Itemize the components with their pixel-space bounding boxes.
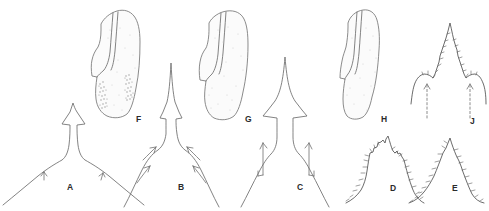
panel-G: G	[199, 11, 252, 124]
panel-A-arrow-right	[99, 173, 105, 180]
panel-J-setae	[422, 33, 477, 78]
panel-B-outline	[124, 63, 219, 207]
panel-E: E	[409, 138, 484, 203]
panel-J: J	[411, 23, 486, 126]
panel-E-setae	[410, 141, 483, 202]
panel-D-outline	[346, 136, 424, 203]
panel-H-label: H	[381, 114, 387, 124]
panel-B-arrow-lower-left	[137, 166, 150, 183]
panel-D: D	[346, 136, 424, 203]
panel-B: B	[124, 63, 219, 207]
panel-B-arrow-lower-right	[193, 166, 206, 183]
panel-E-outline	[409, 138, 484, 203]
panel-J-outline	[411, 23, 486, 104]
panel-D-label: D	[390, 183, 396, 193]
panel-F: F	[91, 10, 141, 124]
panel-G-outline	[199, 11, 248, 120]
panel-H-outline	[340, 10, 379, 119]
panel-H: H	[340, 10, 387, 124]
panel-C-arrow-right	[305, 143, 314, 176]
illustration-plate: A B C D	[0, 0, 489, 211]
panel-B-label: B	[178, 182, 184, 192]
panel-C-label: C	[297, 182, 303, 192]
panel-C: C	[241, 57, 329, 207]
panel-A-outline	[3, 103, 144, 205]
panel-D-setae	[346, 142, 423, 201]
panel-J-label: J	[470, 116, 475, 126]
panel-C-outline	[241, 57, 329, 207]
panel-A-label: A	[67, 182, 73, 192]
panel-F-outline	[91, 10, 140, 118]
panel-F-label: F	[136, 114, 141, 124]
panel-G-label: G	[245, 114, 252, 124]
panel-E-label: E	[452, 183, 458, 193]
panel-A: A	[3, 103, 144, 205]
